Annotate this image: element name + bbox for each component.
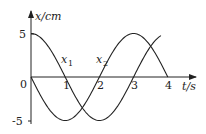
x-tick-label-2: 2 [97,79,104,92]
series-x1-label: x 1 [61,53,73,68]
oscillation-chart: x/cm 5 -5 0 1 2 3 4 t/s x 1 x 2 [0,0,206,134]
x-tick-label-3: 3 [131,79,138,92]
y-tick-label-5: 5 [19,28,26,41]
x-tick-label-1: 1 [63,79,70,92]
x-tick-label-4: 4 [165,79,172,92]
svg-text:x: x [96,53,103,66]
svg-text:1: 1 [68,59,73,68]
y-tick-label-neg5: -5 [12,115,23,128]
svg-text:x: x [61,53,68,66]
svg-text:2: 2 [103,59,108,68]
origin-label: 0 [20,78,27,91]
x-axis-label: t/s [182,80,196,93]
y-axis-label: x/cm [35,10,62,23]
series-x2-label: x 2 [96,53,108,68]
